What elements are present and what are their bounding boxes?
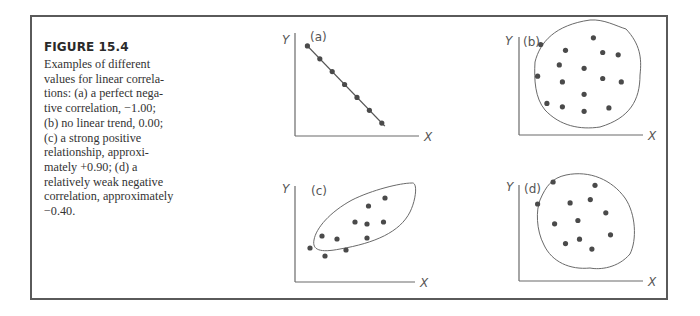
envelope xyxy=(537,174,634,269)
panel-a: Y X (a) xyxy=(282,30,433,144)
data-point xyxy=(563,48,568,53)
data-point xyxy=(342,82,347,87)
data-point xyxy=(616,52,621,57)
y-axis-label: Y xyxy=(282,33,291,47)
data-point xyxy=(544,101,549,106)
envelope xyxy=(314,183,416,251)
panel-label: (c) xyxy=(311,184,327,198)
data-point xyxy=(366,203,371,208)
data-point xyxy=(557,62,562,67)
data-point xyxy=(352,219,357,224)
data-point xyxy=(343,247,348,252)
envelope xyxy=(535,20,641,128)
data-point xyxy=(588,197,593,202)
panel-d: Y X (d) xyxy=(506,174,657,289)
data-point xyxy=(307,245,312,250)
panel-b: Y X (b) xyxy=(505,20,657,143)
data-point xyxy=(551,179,556,184)
data-point xyxy=(600,76,605,81)
data-point xyxy=(382,195,387,200)
data-point xyxy=(364,221,369,226)
data-point xyxy=(334,236,339,241)
y-axis-label: Y xyxy=(282,182,291,196)
data-point xyxy=(319,233,324,238)
data-point xyxy=(608,232,613,237)
data-point xyxy=(606,105,611,110)
data-point xyxy=(582,92,587,97)
x-axis-label: X xyxy=(647,275,657,289)
panel-c: Y X (c) xyxy=(282,182,429,290)
data-point xyxy=(330,69,335,74)
data-point xyxy=(592,183,597,188)
x-axis-label: X xyxy=(423,130,433,144)
panel-label: (d) xyxy=(524,182,541,196)
data-point xyxy=(364,235,369,240)
panel-label: (a) xyxy=(310,30,327,44)
panel-label: (b) xyxy=(523,35,540,49)
data-point xyxy=(317,56,322,61)
data-point xyxy=(354,95,359,100)
scatter-panels: Y X (a) Y X (b) Y X (c) Y X (d) xyxy=(0,0,700,316)
data-point xyxy=(535,201,540,206)
data-point xyxy=(589,247,594,252)
y-axis-label: Y xyxy=(505,34,514,48)
data-point xyxy=(538,42,543,47)
x-axis-label: X xyxy=(647,129,657,143)
data-point xyxy=(367,108,372,113)
data-point xyxy=(582,66,587,71)
data-point xyxy=(563,241,568,246)
data-point xyxy=(381,219,386,224)
data-point xyxy=(575,218,580,223)
data-point xyxy=(619,79,624,84)
data-point xyxy=(603,210,608,215)
data-point xyxy=(305,43,310,48)
data-point xyxy=(600,50,605,55)
points-d xyxy=(535,179,613,251)
y-axis-label: Y xyxy=(506,180,515,194)
data-point xyxy=(552,221,557,226)
data-point xyxy=(560,104,565,109)
data-point xyxy=(591,35,596,40)
data-point xyxy=(582,109,587,114)
data-point xyxy=(379,121,384,126)
data-point xyxy=(560,79,565,84)
data-point xyxy=(322,253,327,258)
data-point xyxy=(535,74,540,79)
points-b xyxy=(535,35,624,114)
data-point xyxy=(577,237,582,242)
x-axis-label: X xyxy=(419,276,429,290)
data-point xyxy=(568,200,573,205)
